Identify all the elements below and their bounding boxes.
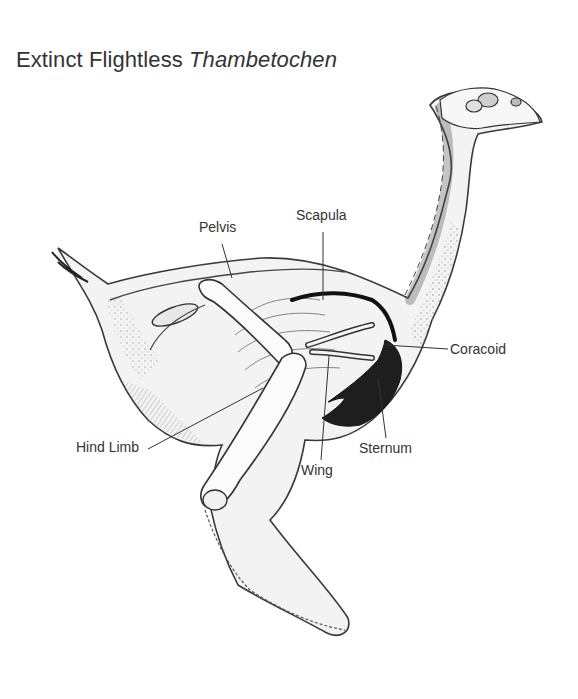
- skull: [440, 88, 540, 129]
- label-coracoid: Coracoid: [450, 341, 506, 357]
- label-scapula: Scapula: [296, 207, 347, 223]
- label-pelvis: Pelvis: [199, 219, 236, 235]
- label-hind-limb: Hind Limb: [76, 439, 139, 455]
- label-wing: Wing: [301, 462, 333, 478]
- label-sternum: Sternum: [359, 440, 412, 456]
- knee-joint: [203, 490, 227, 510]
